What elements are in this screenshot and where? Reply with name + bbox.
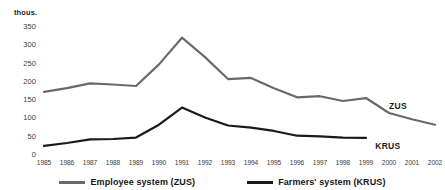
y-axis-tick: 0 xyxy=(6,150,36,159)
y-axis-tick: 50 xyxy=(6,131,36,140)
x-axis-tick: 1994 xyxy=(244,159,258,166)
chart-legend: Employee system (ZUS)Farmers' system (KR… xyxy=(0,177,445,187)
x-axis-tick: 1987 xyxy=(83,159,97,166)
x-axis-tick: 1998 xyxy=(336,159,350,166)
line-chart: thous. 350300250200150100500 19851986198… xyxy=(0,0,445,190)
y-axis-tick: 350 xyxy=(6,22,36,31)
y-axis-tick: 300 xyxy=(6,40,36,49)
x-axis-tick: 2002 xyxy=(428,159,442,166)
x-axis-tick: 1985 xyxy=(37,159,51,166)
legend-line-swatch xyxy=(247,181,273,184)
y-axis-unit-label: thous. xyxy=(14,8,37,17)
x-axis-tick: 1993 xyxy=(221,159,235,166)
x-axis-tick: 1992 xyxy=(198,159,212,166)
y-axis-tick: 250 xyxy=(6,58,36,67)
x-axis-tick: 1990 xyxy=(152,159,166,166)
x-axis-tick: 1995 xyxy=(267,159,281,166)
x-axis-tick: 1989 xyxy=(129,159,143,166)
y-axis-tick: 200 xyxy=(6,76,36,85)
legend-label: Employee system (ZUS) xyxy=(90,177,195,187)
legend-item[interactable]: Employee system (ZUS) xyxy=(59,177,195,187)
plot-area xyxy=(44,26,435,154)
series-label-zus: ZUS xyxy=(389,101,407,111)
series-line-krus xyxy=(44,108,366,146)
legend-line-swatch xyxy=(59,181,85,184)
y-axis-tick: 150 xyxy=(6,95,36,104)
plot-svg xyxy=(44,26,435,154)
x-axis-tick: 1997 xyxy=(313,159,327,166)
legend-item[interactable]: Farmers' system (KRUS) xyxy=(247,177,385,187)
x-axis-tick: 1991 xyxy=(175,159,189,166)
y-axis-tick: 100 xyxy=(6,113,36,122)
series-label-krus: KRUS xyxy=(375,141,400,151)
series-line-zus xyxy=(44,38,435,125)
x-axis-tick: 2000 xyxy=(382,159,396,166)
x-axis-tick: 1986 xyxy=(60,159,74,166)
x-axis-tick: 1996 xyxy=(290,159,304,166)
x-axis-tick: 1999 xyxy=(359,159,373,166)
legend-label: Farmers' system (KRUS) xyxy=(278,177,385,187)
x-axis-tick: 1988 xyxy=(106,159,120,166)
x-axis-tick: 2001 xyxy=(405,159,419,166)
